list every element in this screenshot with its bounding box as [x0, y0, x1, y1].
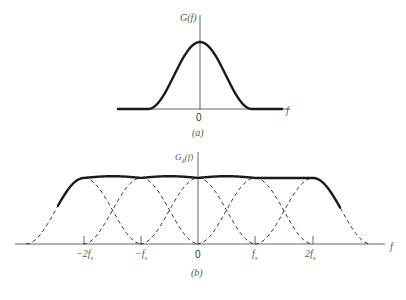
panel-b-y-label-tail: (f) — [185, 152, 194, 162]
panel-b-caption: (b) — [191, 268, 203, 278]
tick-label-neg-2fs: −2fs — [76, 249, 93, 262]
tick-label-sub: s — [145, 254, 148, 262]
tick-label-main: 0 — [195, 249, 201, 260]
spectrum-diagram — [0, 0, 406, 300]
panel-b-y-axis-label: Gδ(f) — [175, 153, 193, 165]
tick-label-sub: s — [255, 254, 258, 262]
panel-a-caption: (a) — [192, 128, 204, 138]
panel-b-ticks — [84, 236, 313, 244]
panel-a-x-axis-label: f — [286, 106, 289, 116]
replica-spectrum-0 — [26, 178, 142, 244]
panel-a-y-axis-label: G(f) — [180, 13, 197, 23]
tick-label-fs: fs — [252, 249, 258, 262]
panel-b-replica-spectra — [26, 178, 371, 244]
replica-spectrum-4 — [255, 178, 371, 244]
tick-label-zero: 0 — [195, 250, 201, 260]
tick-label-2fs: 2fs — [305, 249, 316, 262]
tick-label-main: −2f — [76, 248, 91, 259]
replica-spectrum-1 — [83, 178, 199, 244]
replica-spectrum-3 — [197, 178, 313, 244]
panel-a-origin-label: 0 — [196, 113, 202, 123]
tick-label-sub: s — [91, 254, 94, 262]
panel-a — [118, 15, 290, 109]
panel-b — [15, 152, 385, 244]
panel-b-x-axis-label: f — [390, 242, 393, 252]
tick-label-main: −f — [135, 248, 145, 259]
panel-b-sum-spectrum-curve — [58, 176, 340, 207]
tick-label-main: 2f — [305, 248, 313, 259]
tick-label-neg-fs: −fs — [135, 249, 147, 262]
tick-label-sub: s — [313, 254, 316, 262]
